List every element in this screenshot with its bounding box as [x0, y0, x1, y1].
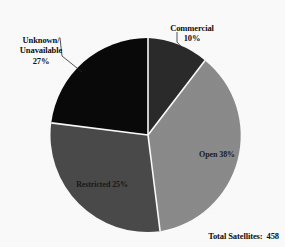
pie-label-open-name: Open: [199, 150, 217, 159]
pie-label-commercial: Commercial 10%: [150, 12, 234, 54]
pie-label-restricted-percent: 25%: [112, 180, 128, 189]
total-satellites-value: 458: [267, 231, 279, 241]
total-satellites-label: Total Satellites:: [208, 231, 262, 241]
pie-label-open-percent: 38%: [219, 150, 235, 159]
pie-label-commercial-name: Commercial: [170, 23, 214, 33]
pie-label-commercial-percent: 10%: [150, 33, 234, 44]
chart-canvas: Commercial 10% Unknown/ Unavailable 27% …: [0, 0, 285, 247]
pie-label-unknown: Unknown/ Unavailable 27%: [2, 24, 80, 77]
total-satellites-annotation: Total Satellites:458: [208, 231, 279, 241]
pie-label-open: Open 38%: [193, 150, 241, 160]
pie-label-unknown-percent: 27%: [2, 56, 80, 67]
pie-slice-restricted[interactable]: [50, 123, 160, 232]
pie-label-restricted: Restricted 25%: [66, 180, 138, 190]
pie-label-restricted-name: Restricted: [76, 180, 110, 189]
pie-label-unknown-name: Unknown/ Unavailable: [20, 35, 62, 56]
